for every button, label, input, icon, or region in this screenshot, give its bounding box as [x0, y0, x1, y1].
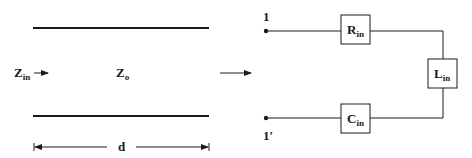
bottom-right-wire	[370, 88, 443, 118]
diagram-canvas: Zin Zo d 1 1′ Rin Lin	[0, 0, 472, 158]
zo-label: Zo	[116, 65, 130, 82]
zin-label: Zin	[14, 65, 30, 82]
length-label: d	[118, 139, 126, 154]
length-dimension: d	[34, 139, 209, 154]
terminal-1-label: 1	[263, 9, 270, 24]
terminal-1prime-label: 1′	[263, 128, 273, 143]
equivalent-circuit: 1 1′ Rin Lin Cin	[263, 9, 457, 143]
inductor-box: Lin	[428, 59, 457, 88]
resistor-box: Rin	[341, 15, 370, 44]
top-right-wire	[370, 31, 443, 59]
diagram: Zin Zo d 1 1′ Rin Lin	[0, 0, 472, 158]
capacitor-box: Cin	[341, 104, 370, 133]
